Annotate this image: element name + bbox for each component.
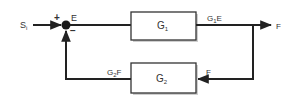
summing-junction	[62, 21, 71, 30]
output-label: F	[276, 22, 281, 31]
block-diagram: Si + − E G1 G1E F F G2 G2F	[0, 0, 294, 102]
plus-sign: +	[54, 12, 60, 23]
feedback-output-label: G2F	[107, 68, 122, 78]
input-label: Si	[20, 20, 27, 31]
forward-output-label: G1E	[207, 14, 222, 24]
minus-sign: −	[70, 25, 76, 36]
feedback-input-label: F	[206, 68, 211, 77]
error-label: E	[71, 13, 77, 23]
